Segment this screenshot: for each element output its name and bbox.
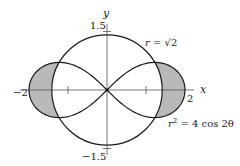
circle-eq-root: √2 <box>165 37 178 48</box>
y-axis-label: y <box>102 7 110 20</box>
lemniscate-eq-rest: = 4 cos 2θ <box>177 118 234 129</box>
lemniscate-equation-label: r2 = 4 cos 2θ <box>168 117 234 129</box>
x-tick-label-neg2: −2 <box>13 87 28 98</box>
y-tick-label-pos: 1.5 <box>90 20 106 31</box>
x-tick-label-pos2: 2 <box>187 93 193 104</box>
y-tick-label-neg: −1.5 <box>82 151 106 162</box>
x-axis-label: x <box>200 83 207 96</box>
circle-eq-r: r = <box>145 37 165 48</box>
origin-dot <box>106 89 109 92</box>
polar-diagram: y 1.5 −1.5 −2 2 x r = √2 r2 = 4 cos 2θ <box>0 0 240 166</box>
circle-equation-label: r = √2 <box>145 37 177 48</box>
